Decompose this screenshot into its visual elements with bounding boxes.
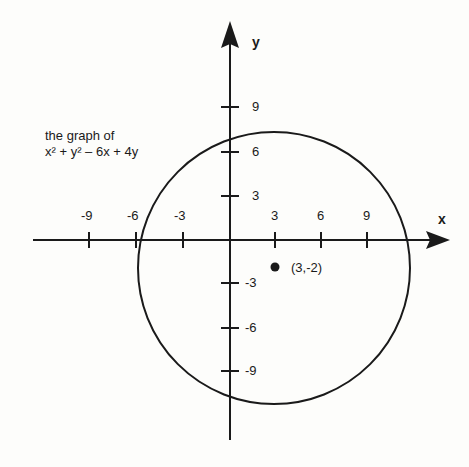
graph-caption: the graph of x² + y² – 6x + 4y xyxy=(45,128,138,160)
y-tick-label: -9 xyxy=(245,363,257,378)
y-tick-label: 3 xyxy=(252,188,259,203)
y-tick-label: 6 xyxy=(252,144,259,159)
y-axis-label: y xyxy=(252,34,260,50)
x-tick-label: -3 xyxy=(174,208,186,223)
x-tick-label: 3 xyxy=(271,208,278,223)
x-tick-label: 9 xyxy=(363,208,370,223)
y-tick-label: -3 xyxy=(245,275,257,290)
x-tick-label: -6 xyxy=(127,208,139,223)
center-point-label: (3,-2) xyxy=(291,260,322,275)
caption-equation: x² + y² – 6x + 4y xyxy=(45,144,138,160)
plot-canvas xyxy=(0,0,469,467)
center-point xyxy=(271,263,280,272)
y-tick-label: 9 xyxy=(252,99,259,114)
y-tick-label: -6 xyxy=(245,320,257,335)
x-tick-label: -9 xyxy=(81,208,93,223)
y-axis-arrow-icon xyxy=(221,21,239,48)
x-tick-label: 6 xyxy=(317,208,324,223)
caption-title: the graph of xyxy=(45,128,138,144)
x-axis-label: x xyxy=(438,211,446,227)
